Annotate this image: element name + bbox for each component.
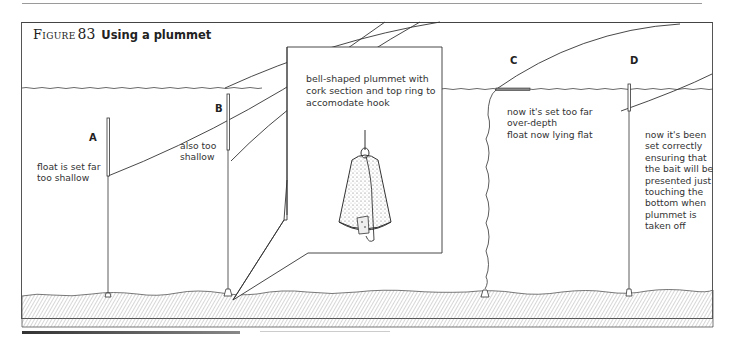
float-d-label: D bbox=[630, 55, 638, 66]
float-b-label: B bbox=[215, 103, 223, 114]
float-d-note: now it's been set correctly ensuring tha… bbox=[645, 129, 713, 232]
bottom-rule bbox=[22, 331, 240, 334]
riverbed bbox=[22, 290, 713, 328]
bottom-rule-light bbox=[260, 331, 390, 332]
float-a bbox=[105, 118, 111, 297]
float-a-note: float is set far too shallow bbox=[37, 161, 100, 184]
float-b-note: also too shallow bbox=[180, 140, 216, 163]
float-a-label: A bbox=[89, 132, 97, 143]
callout-text: bell-shaped plummet with cork section an… bbox=[306, 73, 436, 109]
float-c-note: now it's set too far over-depth float no… bbox=[507, 106, 593, 140]
float-d bbox=[626, 84, 632, 296]
float-c-label: C bbox=[510, 55, 517, 66]
plummet-illustration bbox=[0, 0, 737, 363]
float-b bbox=[224, 94, 232, 296]
